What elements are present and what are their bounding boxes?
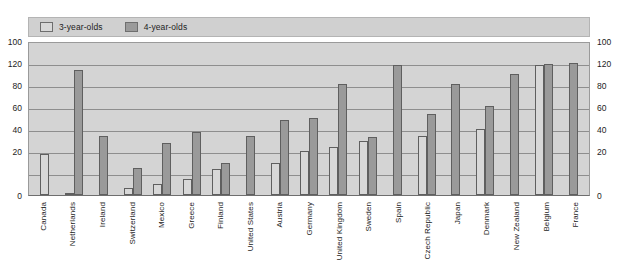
y-tick-left-6: 0 bbox=[17, 192, 22, 201]
bar-group bbox=[529, 43, 558, 195]
x-axis-label-cell: France bbox=[560, 200, 590, 264]
y-axis-left: 100 120 80 60 40 20 0 bbox=[0, 36, 26, 202]
x-axis-label: Japan bbox=[452, 202, 461, 224]
x-axis-label: Spain bbox=[393, 202, 402, 223]
x-axis-label: Greece bbox=[186, 202, 195, 229]
x-axis-label-cell: Netherlands bbox=[58, 200, 88, 264]
x-axis-label-cell: Austria bbox=[265, 200, 295, 264]
x-axis-label: Germany bbox=[304, 202, 313, 236]
bar bbox=[535, 65, 544, 195]
y-tick-left-1: 120 bbox=[8, 60, 22, 69]
x-axis-label: United Kingdom bbox=[334, 202, 343, 260]
bar bbox=[192, 132, 201, 195]
x-axis-label: United States bbox=[245, 202, 254, 251]
x-axis-label-cell: Sweden bbox=[353, 200, 383, 264]
x-axis-label-cell: Greece bbox=[176, 200, 206, 264]
x-axis-label-cell: Mexico bbox=[146, 200, 176, 264]
bar-group bbox=[118, 43, 147, 195]
bar bbox=[162, 143, 171, 195]
bar bbox=[221, 163, 230, 195]
y-tick-right-1: 120 bbox=[597, 60, 611, 69]
legend-item-4-year-olds: 4-year-olds bbox=[125, 22, 188, 32]
bar-group bbox=[353, 43, 382, 195]
bar-group bbox=[177, 43, 206, 195]
x-axis-label-cell: Czech Republic bbox=[413, 200, 443, 264]
bar-group bbox=[471, 43, 500, 195]
bar bbox=[329, 147, 338, 195]
x-axis-label-cell: Japan bbox=[442, 200, 472, 264]
bar-series-container bbox=[29, 43, 589, 195]
x-axis-label-cell: Switzerland bbox=[117, 200, 147, 264]
bar-group bbox=[383, 43, 412, 195]
x-axis-label-cell: Denmark bbox=[472, 200, 502, 264]
bar-group bbox=[206, 43, 235, 195]
legend-swatch-dark-icon bbox=[125, 22, 138, 32]
bar bbox=[124, 188, 133, 195]
y-tick-right-4: 40 bbox=[597, 126, 606, 135]
bar bbox=[153, 184, 162, 195]
y-tick-right-5: 20 bbox=[597, 148, 606, 157]
x-axis-label: Finland bbox=[216, 202, 225, 229]
x-axis-label-cell: Germany bbox=[294, 200, 324, 264]
bar bbox=[569, 63, 578, 195]
bar bbox=[212, 169, 221, 195]
bar-group bbox=[441, 43, 470, 195]
bar bbox=[74, 70, 83, 195]
bar bbox=[65, 193, 74, 195]
bar-group bbox=[59, 43, 88, 195]
bar bbox=[40, 154, 49, 195]
x-axis-label: Belgium bbox=[541, 202, 550, 232]
bar bbox=[359, 141, 368, 195]
x-axis-label: Denmark bbox=[482, 202, 491, 235]
y-tick-right-6: 0 bbox=[597, 192, 602, 201]
bar bbox=[280, 120, 289, 195]
x-axis-label-cell: United States bbox=[235, 200, 265, 264]
bar bbox=[133, 168, 142, 196]
bar bbox=[544, 64, 553, 195]
y-tick-right-0: 100 bbox=[597, 38, 611, 47]
x-axis-labels: CanadaNetherlandsIrelandSwitzerlandMexic… bbox=[28, 200, 590, 264]
bar-group bbox=[148, 43, 177, 195]
bar bbox=[451, 84, 460, 195]
bar-group bbox=[500, 43, 529, 195]
bar-group bbox=[559, 43, 588, 195]
x-axis-label: Switzerland bbox=[127, 202, 136, 244]
y-tick-left-5: 20 bbox=[13, 148, 22, 157]
bar-group bbox=[324, 43, 353, 195]
x-axis-label: New Zealand bbox=[512, 202, 521, 250]
chart-figure: 3-year-olds 4-year-olds 100 120 80 60 40… bbox=[0, 0, 620, 267]
x-axis-label: France bbox=[571, 202, 580, 228]
y-tick-right-2: 80 bbox=[597, 82, 606, 91]
y-tick-left-0: 100 bbox=[8, 38, 22, 47]
y-axis-right: 100 120 80 60 40 20 0 bbox=[592, 36, 620, 202]
x-axis-label-cell: Finland bbox=[205, 200, 235, 264]
chart-legend: 3-year-olds 4-year-olds bbox=[40, 19, 187, 35]
bar bbox=[246, 136, 255, 195]
bar bbox=[368, 137, 377, 195]
plot-area bbox=[28, 42, 590, 196]
x-axis-label: Sweden bbox=[364, 202, 373, 232]
legend-item-3-year-olds: 3-year-olds bbox=[40, 22, 103, 32]
x-axis-label-cell: New Zealand bbox=[501, 200, 531, 264]
legend-label-3-year-olds: 3-year-olds bbox=[59, 22, 103, 32]
bar-group bbox=[412, 43, 441, 195]
bar-group bbox=[236, 43, 265, 195]
bar bbox=[300, 151, 309, 195]
x-axis-label-cell: Ireland bbox=[87, 200, 117, 264]
x-axis-label: Canada bbox=[38, 202, 47, 231]
bar-group bbox=[265, 43, 294, 195]
legend-swatch-light-icon bbox=[40, 22, 53, 32]
x-axis-label-cell: Canada bbox=[28, 200, 58, 264]
x-axis-label-cell: Belgium bbox=[531, 200, 561, 264]
bar-group bbox=[294, 43, 323, 195]
y-tick-left-3: 60 bbox=[13, 104, 22, 113]
x-axis-label: Ireland bbox=[97, 202, 106, 227]
bar-group bbox=[89, 43, 118, 195]
bar bbox=[427, 114, 436, 195]
x-axis-label-cell: Spain bbox=[383, 200, 413, 264]
bar bbox=[476, 129, 485, 195]
x-axis-label-cell: United Kingdom bbox=[324, 200, 354, 264]
x-axis-label: Netherlands bbox=[68, 202, 77, 246]
y-tick-right-3: 60 bbox=[597, 104, 606, 113]
bar bbox=[99, 136, 108, 195]
